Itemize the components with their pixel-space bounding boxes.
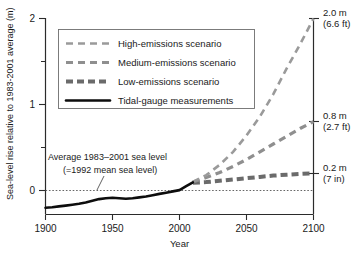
legend-label-tidal-gauge: Tidal-gauge measurements <box>118 95 234 106</box>
y-axis-title: Sea-level rise relative to 1983-2001 ave… <box>5 7 15 200</box>
annotation-line-2: (=1992 mean sea level) <box>63 165 157 175</box>
endpoint-label-high-secondary: (6.6 ft) <box>323 18 350 29</box>
endpoint-label-low-value: 0.2 m <box>323 162 347 173</box>
legend-label-low-emissions: Low-emissions scenario <box>118 76 219 87</box>
x-tick-label-1900: 1900 <box>34 223 57 234</box>
x-tick-label-2100: 2100 <box>302 223 325 234</box>
annotation-line-1: Average 1983–2001 sea level <box>48 152 167 162</box>
x-tick-label-1950: 1950 <box>101 223 124 234</box>
endpoint-label-medium-value: 0.8 m <box>323 110 347 121</box>
legend-label-medium-emissions: Medium-emissions scenario <box>118 57 236 68</box>
y-tick-label-2: 2 <box>29 13 35 24</box>
sea-level-rise-chart: Sea-level rise relative to 1983-2001 ave… <box>0 0 363 257</box>
x-tick-label-2000: 2000 <box>168 223 191 234</box>
y-tick-label-0: 0 <box>29 185 35 196</box>
chart-legend: High-emissions scenario Medium-emissions… <box>59 30 255 109</box>
legend-label-high-emissions: High-emissions scenario <box>118 38 221 49</box>
x-axis-title: Year <box>170 238 189 249</box>
endpoint-label-high-value: 2.0 m <box>323 7 347 18</box>
endpoint-label-medium-secondary: (2.7 ft) <box>323 121 350 132</box>
x-tick-label-2050: 2050 <box>235 223 258 234</box>
endpoint-label-low-secondary: (7 in) <box>323 173 345 184</box>
y-tick-label-1: 1 <box>29 99 35 110</box>
